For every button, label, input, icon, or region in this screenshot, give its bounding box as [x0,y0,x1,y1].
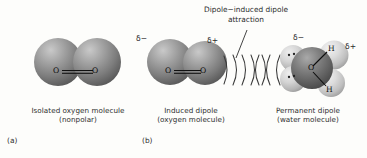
caption-panel-b: Induced dipole (oxygen molecule) [136,106,246,125]
oxygen-atom-label-a-right: O [92,66,98,75]
dipole-induced-dipole-arcs [224,55,289,85]
oxygen-atom-label-b-right: O [200,66,206,75]
charge-label-delta-plus-induced: δ+ [207,36,218,45]
figure-canvas: Dipole−induced dipole attraction O O O O… [0,0,367,158]
caption-panel-water: Permanent dipole (water molecule) [252,106,364,125]
caption-panel-a: Isolated oxygen molecule (nonpolar) [8,106,148,125]
caption-panel-a-line2: (nonpolar) [8,115,148,124]
oxygen-atom-label-b-left: O [165,66,171,75]
charge-label-delta-minus-induced: δ− [136,34,147,43]
annotation-leader-line [236,30,247,58]
top-annotation-line2: attraction [186,15,306,25]
oxygen-atom-label-water: O [308,63,314,72]
caption-panel-b-line2: (oxygen molecule) [136,115,246,124]
caption-panel-a-line1: Isolated oxygen molecule [8,106,148,115]
panel-letter-a: (a) [7,136,17,145]
oxygen-atom-label-a-left: O [53,66,59,75]
caption-panel-b-line1: Induced dipole [136,106,246,115]
top-annotation-line1: Dipole−induced dipole [186,5,306,15]
caption-panel-water-line2: (water molecule) [252,115,364,124]
top-annotation: Dipole−induced dipole attraction [186,5,306,24]
caption-panel-water-line1: Permanent dipole [252,106,364,115]
charge-label-delta-minus-water: δ− [293,33,304,42]
charge-label-delta-plus-water: δ+ [345,42,356,51]
molecular-diagram-artwork [0,0,367,158]
induced-dipole-oxygen-molecule-art [147,39,227,85]
panel-letter-b: (b) [142,136,152,145]
water-molecule-art [280,41,349,98]
isolated-oxygen-molecule-art [34,38,121,86]
hydrogen-atom-label-lower: H [326,85,333,94]
hydrogen-atom-label-upper: H [328,44,335,53]
